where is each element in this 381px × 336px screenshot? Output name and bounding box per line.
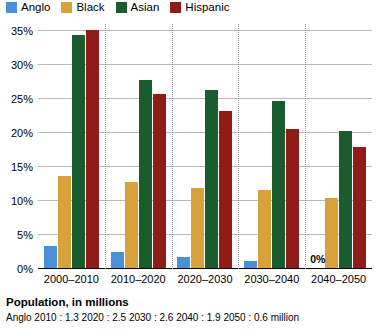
bar-asian (272, 101, 285, 268)
chart-footer: Population, in millions Anglo 2010 : 1.3… (6, 296, 375, 325)
bar-hispanic (286, 129, 299, 269)
legend-item-anglo: Anglo (6, 2, 50, 14)
bar-hispanic (86, 30, 99, 268)
x-axis-tick-label: 2030–2040 (244, 273, 299, 285)
y-axis-tick-label: 30% (11, 59, 33, 71)
chart-page: Anglo Black Asian Hispanic 0%5%10%15%20%… (0, 0, 381, 336)
bar-group (305, 23, 372, 268)
bar-black (58, 176, 71, 268)
legend-label-hispanic: Hispanic (185, 2, 229, 14)
legend-swatch-asian (116, 2, 127, 13)
bar-hispanic (153, 94, 166, 268)
legend-swatch-anglo (6, 2, 17, 13)
legend-item-asian: Asian (116, 2, 160, 14)
bar-black (125, 182, 138, 268)
legend-swatch-black (61, 2, 72, 13)
bar-group (105, 23, 172, 268)
y-axis-tick-label: 10% (11, 195, 33, 207)
bar-anglo (111, 252, 124, 268)
footer-title: Population, in millions (6, 296, 375, 308)
bar-asian (139, 80, 152, 268)
legend-swatch-hispanic (170, 2, 181, 13)
bar-black (258, 190, 271, 268)
bar-group (238, 23, 305, 268)
zero-value-annotation: 0% (310, 253, 325, 265)
legend-item-black: Black (61, 2, 104, 14)
bar-asian (339, 131, 352, 268)
x-axis-tick-label: 2000–2010 (44, 273, 99, 285)
legend-item-hispanic: Hispanic (170, 2, 229, 14)
x-axis-tick-label: 2010–2020 (111, 273, 166, 285)
bar-asian (72, 35, 85, 268)
y-axis-tick-label: 0% (17, 263, 33, 275)
bar-anglo (44, 246, 57, 268)
y-gridline (38, 268, 372, 269)
bar-hispanic (353, 147, 366, 268)
legend-label-anglo: Anglo (21, 2, 50, 14)
bar-group (172, 23, 239, 268)
bar-black (325, 198, 338, 268)
y-axis-tick-label: 35% (11, 25, 33, 37)
y-axis-tick-label: 25% (11, 93, 33, 105)
bar-anglo (244, 261, 257, 268)
plot-area: 0%5%10%15%20%25%30%35%0% (38, 24, 372, 269)
x-axis-tick-label: 2040–2050 (311, 273, 366, 285)
bar-hispanic (219, 111, 232, 268)
legend-label-black: Black (76, 2, 104, 14)
legend-label-asian: Asian (131, 2, 160, 14)
bar-group (38, 23, 105, 268)
bar-asian (205, 90, 218, 268)
x-axis-tick-label: 2020–2030 (177, 273, 232, 285)
y-axis-tick-label: 20% (11, 127, 33, 139)
bar-anglo (177, 257, 190, 268)
y-axis-tick-label: 15% (11, 161, 33, 173)
footer-note: Anglo 2010 : 1.3 2020 : 2.5 2030 : 2.6 2… (6, 312, 375, 325)
y-axis-tick-label: 5% (17, 229, 33, 241)
chart-legend: Anglo Black Asian Hispanic (6, 2, 229, 14)
bar-black (191, 188, 204, 268)
